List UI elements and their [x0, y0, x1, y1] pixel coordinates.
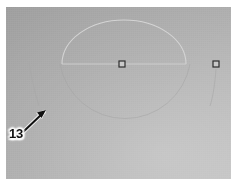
lower-arc [60, 64, 190, 119]
right-trace-line [210, 69, 216, 106]
leader-arrow [22, 110, 46, 133]
dome-arc [62, 20, 186, 64]
feature-overlay [6, 7, 231, 179]
figure-root: 13 [0, 0, 237, 186]
left-trace-line [29, 62, 39, 106]
vignette-overlay [6, 7, 231, 179]
center-square-marker [119, 61, 125, 67]
film-grain-texture [6, 7, 231, 179]
callout-label-13: 13 [9, 127, 23, 140]
right-square-marker [213, 61, 219, 67]
grayscale-image-plate [6, 7, 231, 179]
